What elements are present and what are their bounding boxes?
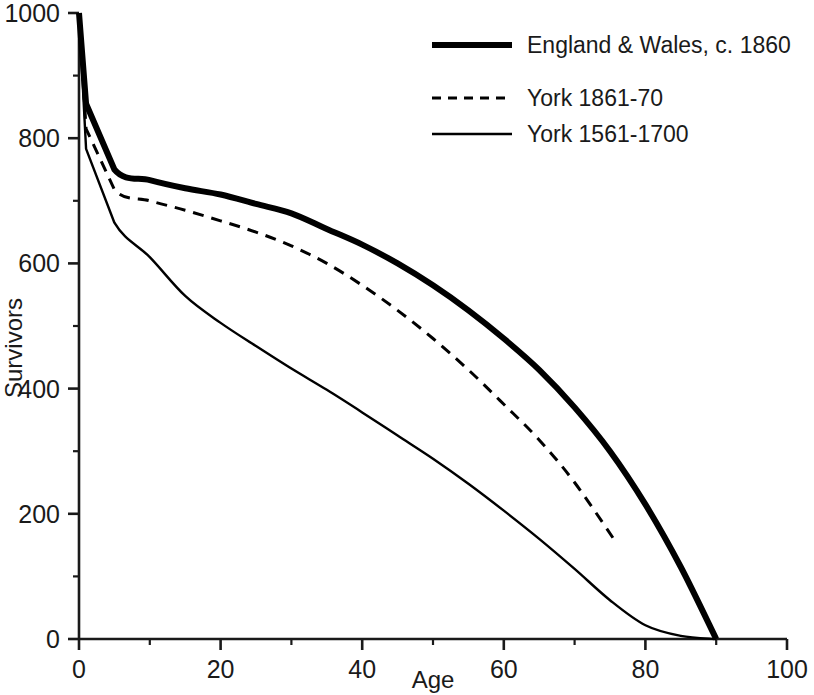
y-axis-title: Survivors — [0, 298, 27, 398]
survival-curve-chart: 020406080100 02004006008001000 Age Survi… — [0, 0, 814, 695]
y-tick-label: 0 — [46, 625, 60, 653]
x-tick-label: 80 — [631, 655, 659, 683]
x-tick-label: 20 — [207, 655, 235, 683]
legend-label: York 1861-70 — [527, 85, 663, 111]
y-tick-label: 800 — [18, 124, 60, 152]
axis-group — [79, 13, 787, 639]
x-axis-ticks — [79, 639, 787, 650]
x-tick-label: 100 — [766, 655, 808, 683]
x-tick-label: 60 — [490, 655, 518, 683]
y-tick-label: 200 — [18, 500, 60, 528]
chart-legend: England & Wales, c. 1860York 1861-70York… — [432, 32, 791, 147]
y-tick-label: 600 — [18, 249, 60, 277]
legend-label: York 1561-1700 — [527, 121, 689, 147]
x-axis-title: Age — [412, 666, 455, 693]
x-tick-label: 0 — [72, 655, 86, 683]
chart-canvas: 020406080100 02004006008001000 Age Survi… — [0, 0, 814, 695]
y-tick-label: 1000 — [4, 0, 60, 27]
legend-label: England & Wales, c. 1860 — [527, 32, 791, 58]
x-tick-label: 40 — [348, 655, 376, 683]
y-axis-ticks — [68, 13, 79, 639]
